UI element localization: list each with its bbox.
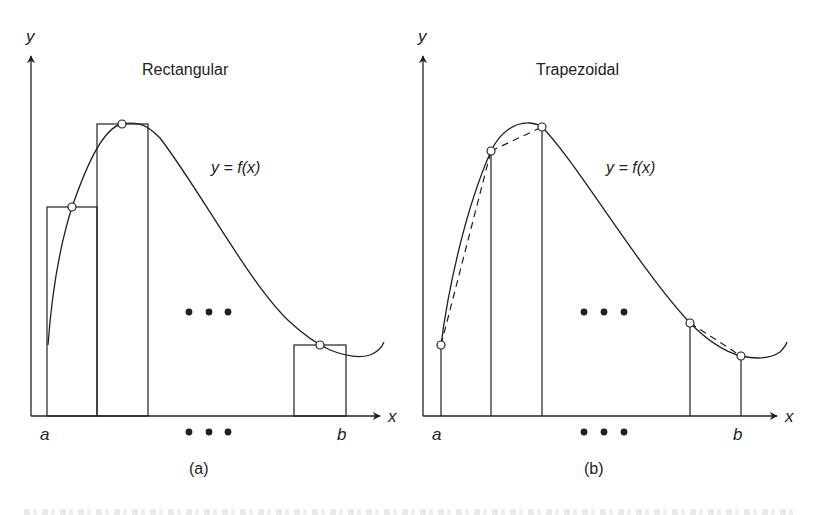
panel-sublabel: (a) — [189, 460, 209, 477]
ellipsis-axis — [581, 429, 628, 436]
figure-caption-cutoff — [0, 503, 821, 515]
sample-point — [68, 203, 76, 211]
rectangle-1 — [47, 207, 97, 416]
sample-points — [437, 123, 745, 360]
y-axis-label: y — [417, 27, 428, 46]
panel-sublabel: (b) — [584, 460, 604, 477]
sample-point — [737, 352, 745, 360]
x-axis-label: x — [387, 407, 397, 426]
b-label: b — [337, 425, 346, 444]
rectangles — [47, 124, 346, 416]
ellipsis-axis — [186, 429, 232, 436]
figure-canvas: y x a b Rectangular y = f(x) (a) — [0, 0, 821, 515]
ellipsis-middle — [186, 309, 232, 316]
chord — [690, 323, 741, 356]
chord — [441, 151, 491, 345]
curve-label: y = f(x) — [210, 159, 260, 176]
a-label: a — [40, 425, 49, 444]
y-axis-label: y — [25, 27, 36, 46]
panel-title: Rectangular — [142, 61, 229, 78]
b-label: b — [733, 425, 742, 444]
panel-rectangular: y x a b Rectangular y = f(x) (a) — [25, 27, 397, 477]
sample-point — [118, 120, 126, 128]
a-label: a — [432, 425, 441, 444]
panel-title: Trapezoidal — [536, 61, 619, 78]
x-axis-label: x — [784, 407, 794, 426]
sample-point — [538, 123, 546, 131]
ordinates — [441, 131, 741, 416]
sample-points — [68, 120, 324, 349]
sample-point — [437, 341, 445, 349]
rectangle-2 — [97, 124, 148, 416]
sample-point — [487, 147, 495, 155]
rectangle-n — [294, 345, 346, 416]
panel-trapezoidal: y x a b Trapezoidal y = f(x) (b) — [417, 27, 794, 477]
sample-point — [686, 319, 694, 327]
ellipsis-middle — [581, 309, 628, 316]
sample-point — [316, 341, 324, 349]
curve-label: y = f(x) — [605, 159, 655, 176]
